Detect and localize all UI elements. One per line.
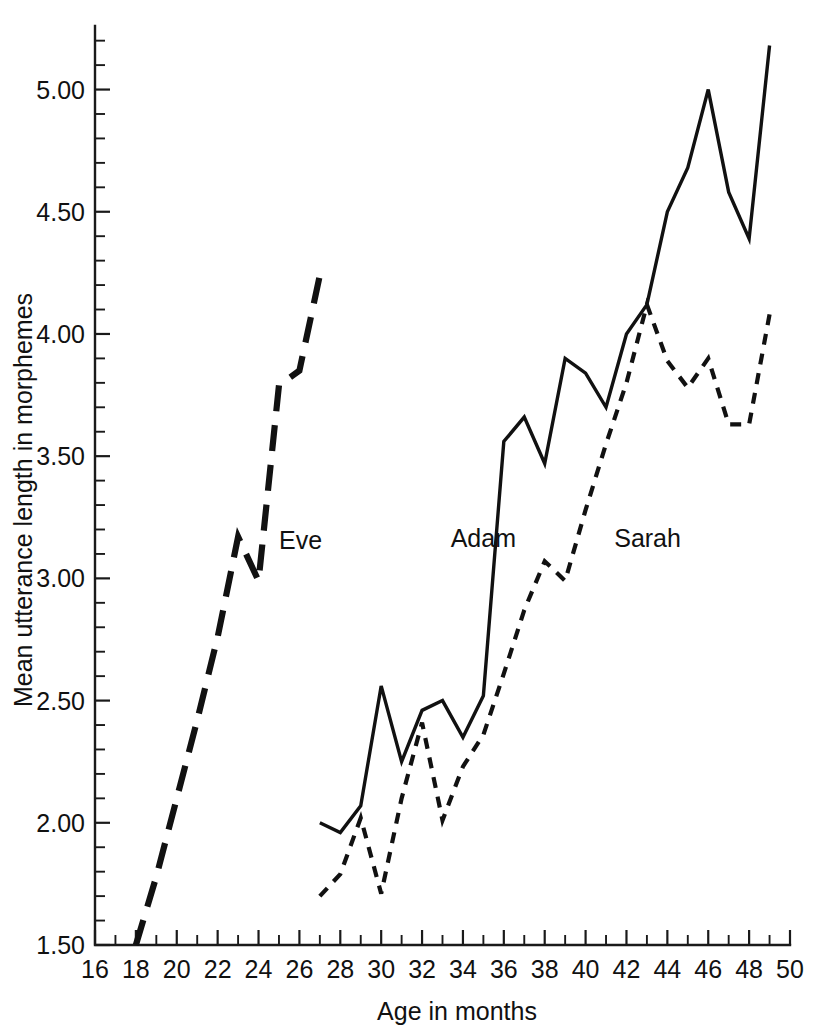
axis-lines [95,26,790,945]
x-tick-label: 30 [367,955,395,983]
series-inline-labels: EveAdamSarah [279,524,681,554]
axes-group [95,26,790,945]
series-label-sarah: Sarah [614,524,681,552]
y-axis-tick-labels: 1.502.002.503.003.504.004.505.00 [36,76,85,959]
x-tick-label: 16 [81,955,109,983]
series-line-eve [136,275,320,945]
x-tick-label: 38 [531,955,559,983]
series-line-adam [320,46,770,833]
y-axis-ticks [95,41,110,945]
y-tick-label: 2.00 [36,809,85,837]
series-line-sarah [320,305,770,896]
chart-figure: 1.502.002.503.003.504.004.505.00 1618202… [0,0,822,1035]
series-group [136,46,770,945]
y-tick-label: 3.00 [36,564,85,592]
x-tick-label: 42 [613,955,641,983]
y-tick-label: 1.50 [36,931,85,959]
y-tick-label: 4.50 [36,198,85,226]
x-tick-label: 18 [122,955,150,983]
x-tick-label: 24 [245,955,273,983]
x-axis-tick-labels: 161820222426283032343638404244464850 [81,955,804,983]
line-chart-canvas: 1.502.002.503.003.504.004.505.00 1618202… [0,0,822,1035]
x-tick-label: 40 [572,955,600,983]
x-tick-label: 36 [490,955,518,983]
y-tick-label: 4.00 [36,320,85,348]
x-tick-label: 26 [286,955,314,983]
x-tick-label: 44 [653,955,681,983]
x-tick-label: 22 [204,955,232,983]
series-label-eve: Eve [279,526,322,554]
x-tick-label: 34 [449,955,477,983]
x-tick-label: 48 [735,955,763,983]
y-tick-label: 5.00 [36,76,85,104]
y-tick-label: 3.50 [36,442,85,470]
y-axis-title: Mean utterance length in morphemes [9,293,37,707]
x-tick-label: 28 [326,955,354,983]
series-label-adam: Adam [451,524,516,552]
x-tick-label: 20 [163,955,191,983]
x-axis-ticks [95,930,790,945]
x-tick-label: 46 [694,955,722,983]
y-tick-label: 2.50 [36,687,85,715]
x-axis-title: Age in months [377,997,537,1025]
x-tick-label: 50 [776,955,804,983]
x-tick-label: 32 [408,955,436,983]
